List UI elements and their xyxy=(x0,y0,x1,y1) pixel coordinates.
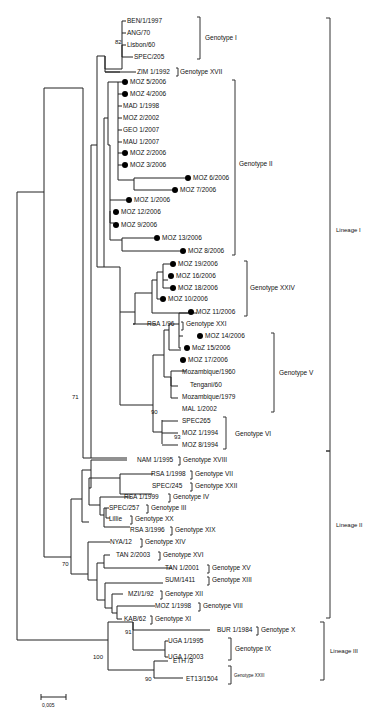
genotype-label: Genotype III xyxy=(151,504,187,512)
tip-label: ET13/1504 xyxy=(186,675,218,682)
tip-label: TAN 2/2003 xyxy=(116,551,151,558)
genotype-label: Genotype XIX xyxy=(175,526,216,534)
tip-label: KAB/62 xyxy=(124,615,146,622)
bootstrap-label: 71 xyxy=(72,394,79,400)
filled-circle-icon xyxy=(160,296,166,302)
tip-label: MAD 1/1998 xyxy=(123,102,160,109)
genotype-label: Genotype XXIV xyxy=(250,284,295,292)
tip-label: Mozambique/1979 xyxy=(182,393,236,401)
genotype-label: Genotype XV xyxy=(212,564,251,572)
lineage-label: Lineage II xyxy=(336,522,363,528)
phylogenetic-tree: BEN/1/1997 ANG/70 Lisbon/60 SPEC/205 ZIM… xyxy=(0,0,374,717)
tip-label: MOZ 8/1994 xyxy=(182,441,219,448)
filled-circle-icon xyxy=(122,91,128,97)
filled-circle-icon xyxy=(180,357,186,363)
tip-label: MOZ 8/2006 xyxy=(188,247,225,254)
tip-label: Lillie xyxy=(109,515,122,522)
tip-label: Lisbon/60 xyxy=(127,41,156,48)
scale-bar: 0,005 xyxy=(41,694,66,708)
filled-circle-icon xyxy=(122,150,128,156)
filled-circle-icon xyxy=(185,175,191,181)
tip-label: MOZ 18/2006 xyxy=(178,284,218,291)
genotype-label: Genotype IV xyxy=(173,493,210,501)
genotype-label: Genotype V xyxy=(279,369,314,377)
bootstrap-label: 70 xyxy=(62,561,69,567)
genotype-label: Genotype XVIII xyxy=(183,456,227,464)
bootstrap-label: 82 xyxy=(115,39,122,45)
genotype-label: Genotype XXI xyxy=(186,320,227,328)
tip-label: MOZ 5/2006 xyxy=(130,78,167,85)
tip-label: MOZ 2/2002 xyxy=(123,114,160,121)
tip-label: SPEC/205 xyxy=(134,53,165,60)
lineage-brackets: Lineage I Lineage II Lineage III xyxy=(320,18,363,680)
tip-label: RSA 1/96 xyxy=(147,320,175,327)
genotype-label: Genotype XII xyxy=(165,590,203,598)
tip-label: MOZ 3/2006 xyxy=(130,161,167,168)
genotype-label: Genotype II xyxy=(239,160,273,168)
genotype-label: Genotype X xyxy=(261,626,296,634)
genotype-label: Genotype IX xyxy=(235,645,272,653)
tip-label: BEN/1/1997 xyxy=(127,17,162,24)
tip-label: ETH /3 xyxy=(173,657,194,664)
genotype-label: Genotype I xyxy=(205,34,237,42)
genotype-label: Genotype VIII xyxy=(203,602,243,610)
bootstrap-label: 90 xyxy=(151,409,158,415)
tip-label: MOZ 12/2006 xyxy=(121,208,161,215)
genotype-label: Genotype XX xyxy=(135,515,174,523)
tip-label: Mozambique/1960 xyxy=(182,368,236,376)
bootstrap-label: 90 xyxy=(145,676,152,682)
filled-circle-icon xyxy=(113,209,119,215)
tip-label: MOZ 14/2006 xyxy=(205,332,245,339)
genotype-label: Genotype VI xyxy=(235,430,271,438)
lineage-label: Lineage III xyxy=(330,648,358,654)
genotype-label: Genotype XXIII xyxy=(234,673,265,678)
tip-label: SPEC/245 xyxy=(152,482,183,489)
tip-label: RSA 3/1996 xyxy=(130,526,165,533)
tip-label: SUM/1411 xyxy=(165,576,196,583)
tip-label: MOZ 1/1994 xyxy=(182,429,219,436)
tip-label: GEO 1/2007 xyxy=(123,126,160,133)
filled-circle-icon xyxy=(122,79,128,85)
bootstrap-label: 100 xyxy=(93,654,104,660)
tip-label: MAU 1/2007 xyxy=(123,138,160,145)
tip-label: MOZ 2/2006 xyxy=(130,149,167,156)
filled-circle-icon xyxy=(170,285,176,291)
bootstrap-label: 93 xyxy=(174,434,181,440)
tip-label: MOZ 10/2006 xyxy=(168,295,208,302)
tip-label: RSA 1/1999 xyxy=(124,493,159,500)
tip-label: MOZ 7/2006 xyxy=(180,186,217,193)
tip-label: ANG/70 xyxy=(127,29,151,36)
tip-label: MOZ 19/2006 xyxy=(178,260,218,267)
tip-label: MOZ 13/2006 xyxy=(162,234,202,241)
filled-circle-icon xyxy=(184,345,190,351)
filled-circle-icon xyxy=(154,235,160,241)
tip-label: RSA 1/1998 xyxy=(151,470,186,477)
tip-label: MOZ 16/2006 xyxy=(176,272,216,279)
bootstrap-values: 82 71 90 93 70 91 100 90 xyxy=(62,39,181,682)
tip-label: MOZ 4/2006 xyxy=(130,90,167,97)
lineage-label: Lineage I xyxy=(336,227,361,233)
genotype-label: Genotype XXII xyxy=(195,482,237,490)
tip-label: MOZ 1/2006 xyxy=(134,196,171,203)
filled-circle-icon xyxy=(197,333,203,339)
tip-label: Tengani/60 xyxy=(190,381,222,389)
filled-circle-icon xyxy=(180,248,186,254)
genotype-label: Genotype XVI xyxy=(163,551,204,559)
tip-label: SPEC265 xyxy=(182,417,211,424)
filled-circle-icon xyxy=(113,222,119,228)
filled-circle-icon xyxy=(172,187,178,193)
filled-circle-icon xyxy=(126,197,132,203)
genotype-label: Genotype XI xyxy=(155,615,191,623)
tip-label: MoZ 15/2006 xyxy=(192,344,231,351)
tip-label: UGA 1/1995 xyxy=(168,637,204,644)
genotype-label: Genotype VII xyxy=(195,470,233,478)
tip-label: MOZ 9/2006 xyxy=(121,221,158,228)
tip-label: NYA/12 xyxy=(110,538,132,545)
tip-label: MOZ 1/1998 xyxy=(155,602,192,609)
filled-circle-icon xyxy=(168,273,174,279)
filled-circle-icon xyxy=(122,162,128,168)
filled-circle-icon xyxy=(170,261,176,267)
tip-label: MOZ 17/2006 xyxy=(188,356,228,363)
genotype-label: Genotype XIII xyxy=(212,576,252,584)
tip-label: MOZ 11/2006 xyxy=(196,308,236,315)
